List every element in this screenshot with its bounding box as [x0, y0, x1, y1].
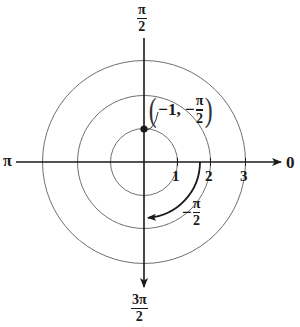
- polar-diagram: π 2 π 0 3π 2 1 2 3 ( −1, − π 2 ) − π 2: [0, 0, 300, 327]
- point-label-angle-den: 2: [196, 112, 203, 126]
- angle-label-half-pi-num: π: [137, 3, 147, 17]
- point-label: ( −1, − π 2 ): [147, 93, 215, 127]
- point-label-prefix: −1, −: [158, 100, 194, 120]
- angle-label-pi: π: [3, 153, 12, 169]
- radius-label-2: 2: [205, 169, 213, 184]
- radius-label-1: 1: [172, 169, 180, 184]
- rotation-arc-label-num: π: [193, 197, 201, 211]
- angle-label-zero: 0: [286, 154, 295, 171]
- rotation-arc-label-den: 2: [193, 214, 200, 228]
- radius-label-3: 3: [240, 169, 248, 184]
- rotation-arc-label-sign: −: [182, 203, 192, 223]
- point-label-angle-fraction: π 2: [196, 94, 204, 125]
- angle-label-three-half-pi: 3π 2: [131, 293, 148, 324]
- rotation-arc-label: − π 2: [182, 197, 200, 228]
- rotation-arc-label-fraction: π 2: [193, 197, 201, 228]
- open-paren: (: [149, 93, 157, 127]
- angle-label-half-pi: π 2: [137, 3, 147, 34]
- angle-label-three-half-pi-den: 2: [135, 310, 144, 324]
- polar-plot-canvas: [0, 0, 300, 327]
- point-label-angle-num: π: [196, 94, 204, 108]
- angle-label-three-half-pi-num: 3π: [131, 293, 148, 307]
- close-paren: ): [205, 93, 213, 127]
- angle-label-half-pi-den: 2: [137, 20, 146, 34]
